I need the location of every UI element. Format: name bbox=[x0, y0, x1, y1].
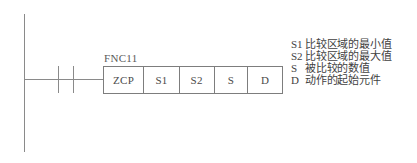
instruction-box[interactable]: ZCP S1 S2 S D bbox=[103, 66, 283, 94]
legend-symbol-s: S bbox=[291, 62, 305, 74]
legend-row: S 被比较的数值 bbox=[291, 62, 415, 74]
legend-symbol-s1: S1 bbox=[291, 38, 305, 50]
fnc-number-label: FNC11 bbox=[104, 52, 138, 64]
left-power-rail bbox=[24, 14, 25, 152]
legend-description-d: 动作的起始元件 bbox=[305, 75, 381, 87]
ladder-diagram-screenshot: FNC11 ZCP S1 S2 S D S1 比较区域的最小值 S2 比较区域的… bbox=[0, 0, 417, 163]
legend-row: S1 比较区域的最小值 bbox=[291, 38, 415, 50]
operand-legend: S1 比较区域的最小值 S2 比较区域的最大值 S 被比较的数值 D 动作的起始… bbox=[291, 38, 415, 86]
instruction-cell-s1[interactable]: S1 bbox=[144, 67, 180, 93]
instruction-cell-mnemonic[interactable]: ZCP bbox=[104, 67, 144, 93]
legend-row: D 动作的起始元件 bbox=[291, 74, 415, 86]
legend-row: S2 比较区域的最大值 bbox=[291, 50, 415, 62]
normally-open-contact-bar-right bbox=[73, 66, 74, 93]
instruction-cell-d[interactable]: D bbox=[248, 67, 282, 93]
rung-wire bbox=[24, 79, 104, 80]
normally-open-contact-bar-left bbox=[58, 66, 59, 93]
instruction-cell-s[interactable]: S bbox=[215, 67, 249, 93]
instruction-cell-s2[interactable]: S2 bbox=[180, 67, 215, 93]
legend-symbol-d: D bbox=[291, 74, 305, 86]
legend-symbol-s2: S2 bbox=[291, 50, 305, 62]
